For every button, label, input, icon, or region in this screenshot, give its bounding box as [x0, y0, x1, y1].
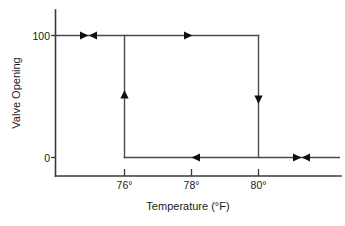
bottom-right-left-arrow-icon [302, 153, 310, 161]
bottom-mid-left-arrow-icon [192, 153, 200, 161]
x-tick-label-76: 76° [117, 179, 133, 191]
y-tick-label-0: 0 [44, 152, 50, 164]
chart-figure: 100 0 76° 78° 80° Temperature (°F) Valve… [0, 0, 345, 226]
arrow-heads-group [80, 31, 310, 161]
x-tick-label-78: 78° [184, 179, 200, 191]
hysteresis-loop [56, 35, 340, 158]
y-tick-label-100: 100 [32, 30, 50, 42]
left-vertical-up-arrow-icon [120, 90, 128, 98]
x-tick-marks [125, 169, 259, 176]
top-left-left-arrow-icon [89, 31, 97, 39]
top-left-right-arrow-icon [80, 31, 88, 39]
right-vertical-down-arrow-icon [254, 96, 262, 104]
x-tick-label-80: 80° [251, 179, 267, 191]
hysteresis-chart-svg: 100 0 76° 78° 80° Temperature (°F) Valve… [0, 0, 345, 226]
y-axis-title: Valve Opening [10, 57, 22, 128]
bottom-right-right-arrow-icon [293, 153, 301, 161]
top-mid-right-arrow-icon [184, 31, 192, 39]
x-axis-title: Temperature (°F) [146, 200, 229, 212]
